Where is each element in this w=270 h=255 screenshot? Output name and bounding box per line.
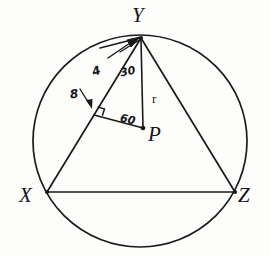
vertex-dot-x	[45, 190, 49, 194]
radius-label: r	[152, 92, 156, 105]
vertex-dot-z	[233, 190, 237, 194]
chord-length-8-label: 8	[69, 87, 79, 100]
vertex-label-x: X	[19, 185, 32, 206]
center-label-p: P	[148, 124, 161, 145]
center-dot-p	[141, 126, 146, 131]
angle-30-label: 30	[119, 65, 136, 79]
circle-outline	[33, 35, 247, 247]
chord-yz	[141, 38, 235, 192]
diagram-canvas	[0, 0, 270, 255]
angle-60-label: 60	[119, 113, 136, 127]
vertex-dot-y	[139, 36, 143, 40]
geometry-figure: X Y Z P 4 30 8 60 r	[0, 0, 270, 255]
vertex-label-z: Z	[238, 185, 250, 206]
pointer-arrow-to-foot-head	[86, 99, 93, 109]
vertex-label-y: Y	[132, 5, 144, 26]
radius-py	[141, 40, 143, 128]
